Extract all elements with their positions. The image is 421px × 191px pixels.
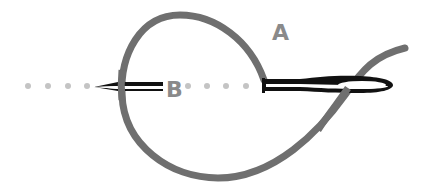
needle-tip-icon [94,82,163,91]
needle-icon [262,76,393,93]
label-b: B [166,77,183,102]
thread-through-eye [318,88,348,130]
thread-overlap [121,70,122,100]
thread-icon [122,15,405,178]
label-a: A [272,20,289,45]
needle-thread-diagram: A B [0,0,421,191]
